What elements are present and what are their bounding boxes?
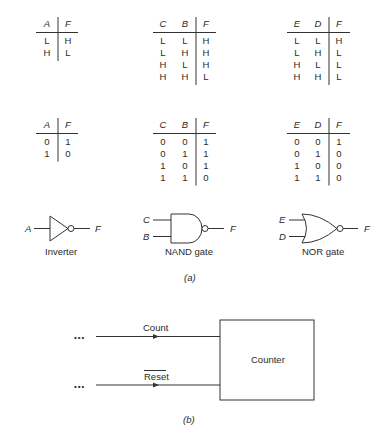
table-row: 110 — [294, 172, 341, 183]
reset-label: Reset — [144, 371, 169, 382]
table-row: 100 — [294, 160, 341, 171]
table-cell: H — [203, 47, 210, 58]
table-cell: L — [315, 59, 320, 70]
table-header-cell: F — [65, 119, 72, 130]
count-ellipsis-icon: ••• — [74, 333, 85, 342]
table-cell: H — [182, 47, 189, 58]
nand-bubble-icon — [202, 226, 208, 232]
inverter-triangle-icon — [50, 216, 68, 241]
table-cell: 1 — [336, 136, 341, 147]
table-cell: 0 — [294, 136, 299, 147]
table-header-cell: F — [65, 18, 72, 29]
table-cell: L — [160, 35, 165, 46]
table-cell: 1 — [182, 172, 187, 183]
table-cell: L — [336, 71, 341, 82]
table-cell: 1 — [160, 160, 165, 171]
table-header-cell: E — [294, 18, 301, 29]
table-row: 001 — [294, 136, 341, 147]
table-cell: 0 — [182, 160, 187, 171]
table-cell: 1 — [315, 148, 320, 159]
table-cell: L — [160, 47, 165, 58]
table-cell: H — [160, 71, 167, 82]
table-row: LLH — [160, 35, 209, 46]
table-cell: L — [336, 47, 341, 58]
nor-output-label: F — [364, 223, 371, 234]
truth-table-nor-01: EDF001010100110 — [287, 118, 350, 186]
table-cell: H — [336, 35, 343, 46]
table-cell: L — [44, 35, 49, 46]
nor-input-top-label: E — [279, 214, 286, 225]
table-cell: 0 — [294, 148, 299, 159]
truth-table-nand-hl: CBFLLHLHHHLHHHL — [153, 17, 216, 85]
table-cell: 1 — [315, 172, 320, 183]
table-cell: L — [336, 59, 341, 70]
table-row: 011 — [160, 148, 208, 159]
inverter-caption: Inverter — [45, 246, 77, 257]
truth-tables-hl: AFLHHLCBFLLHLHHHLHHHLEDFLLHLHLHLLHHL — [36, 17, 350, 85]
table-row: LHL — [294, 47, 341, 58]
table-cell: H — [315, 71, 322, 82]
nor-input-bottom-label: D — [279, 231, 286, 242]
table-header-cell: E — [294, 119, 301, 130]
table-cell: H — [294, 71, 301, 82]
table-header-cell: B — [182, 119, 189, 130]
nand-caption: NAND gate — [165, 246, 213, 257]
table-header-cell: A — [43, 18, 50, 29]
inverter-output-label: F — [95, 223, 102, 234]
table-cell: 0 — [160, 136, 165, 147]
table-row: HLH — [160, 59, 210, 70]
table-row: 001 — [160, 136, 208, 147]
table-cell: L — [294, 35, 299, 46]
inverter-bubble-icon — [68, 226, 74, 232]
table-row: LLH — [294, 35, 342, 46]
table-header-cell: C — [160, 18, 167, 29]
table-row: 010 — [294, 148, 341, 159]
table-cell: H — [182, 71, 189, 82]
nor-bubble-icon — [337, 226, 343, 232]
table-header-cell: F — [336, 119, 343, 130]
truth-table-nand-01: CBF001011101110 — [153, 118, 216, 186]
table-cell: 1 — [160, 172, 165, 183]
reset-arrow-icon — [153, 383, 159, 388]
table-header-cell: A — [43, 119, 50, 130]
table-cell: L — [182, 35, 187, 46]
counter-box-label: Counter — [251, 354, 285, 365]
nand-gate: C B F NAND gate — [143, 214, 237, 257]
table-cell: 1 — [203, 160, 208, 171]
table-cell: 1 — [44, 148, 49, 159]
table-cell: 0 — [315, 136, 320, 147]
inverter-input-label: A — [24, 223, 31, 234]
nand-output-label: F — [230, 223, 237, 234]
table-header-cell: B — [182, 18, 189, 29]
truth-table-inverter-01: AF0110 — [36, 118, 78, 162]
table-cell: 1 — [182, 148, 187, 159]
table-cell: H — [315, 47, 322, 58]
table-header-cell: F — [203, 119, 210, 130]
table-cell: 1 — [294, 172, 299, 183]
table-cell: 0 — [336, 160, 341, 171]
table-header-cell: D — [315, 18, 322, 29]
table-row: HHL — [294, 71, 342, 82]
counter-diagram: Counter ••• Count ••• Reset — [74, 320, 314, 400]
nand-input-bottom-label: B — [143, 231, 150, 242]
count-label: Count — [143, 322, 169, 333]
nor-body-icon — [302, 214, 337, 243]
table-cell: 0 — [44, 136, 49, 147]
truth-table-inverter-hl: AFLHHL — [36, 17, 78, 61]
count-arrow-icon — [153, 334, 159, 339]
table-cell: H — [65, 35, 72, 46]
nor-caption: NOR gate — [302, 246, 344, 257]
table-cell: 0 — [65, 148, 70, 159]
table-cell: H — [44, 47, 51, 58]
table-row: 101 — [160, 160, 208, 171]
table-cell: 0 — [336, 172, 341, 183]
table-header-cell: F — [203, 18, 210, 29]
nor-gate: E D F NOR gate — [279, 214, 371, 257]
table-cell: L — [65, 47, 70, 58]
table-row: HL — [44, 47, 71, 58]
table-cell: H — [294, 59, 301, 70]
caption-a: (a) — [184, 272, 196, 283]
table-header-cell: F — [336, 18, 343, 29]
table-row: HLL — [294, 59, 342, 70]
table-cell: L — [315, 35, 320, 46]
